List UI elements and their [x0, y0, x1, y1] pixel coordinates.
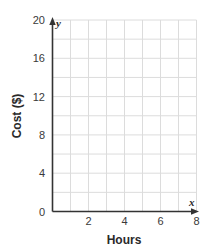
y-tick-label: 12 — [33, 91, 45, 103]
x-tick-label: 8 — [193, 215, 199, 227]
y-tick-label: 8 — [39, 129, 45, 141]
y-axis-arrow-icon — [49, 17, 55, 25]
y-axis-title: Cost ($) — [10, 94, 24, 139]
grid-lines — [53, 20, 197, 212]
x-tick-label: 4 — [121, 215, 127, 227]
y-axis-variable: y — [54, 17, 61, 29]
x-axis-arrow-icon — [191, 208, 199, 214]
coordinate-grid-chart: 048121620 2468 y x Hours Cost ($) — [0, 0, 212, 252]
x-tick-label: 2 — [85, 215, 91, 227]
y-tick-label: 16 — [33, 52, 45, 64]
x-tick-labels: 2468 — [85, 215, 199, 227]
y-tick-label: 0 — [39, 206, 45, 218]
x-tick-label: 6 — [157, 215, 163, 227]
y-tick-label: 20 — [33, 14, 45, 26]
y-tick-labels: 048121620 — [33, 14, 45, 218]
y-tick-label: 4 — [39, 167, 45, 179]
x-axis-variable: x — [188, 196, 195, 208]
x-axis-title: Hours — [107, 233, 142, 247]
